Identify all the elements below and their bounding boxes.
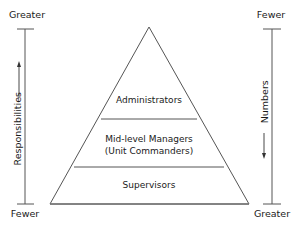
tier-label: Supervisors (123, 179, 176, 191)
left-axis-bottom-label: Fewer (11, 209, 39, 219)
right-axis-bottom-label: Greater (254, 209, 290, 219)
pyramid-outline (50, 27, 249, 204)
diagram-canvas (0, 0, 299, 228)
left-axis-top-label: Greater (9, 10, 45, 20)
right-axis-top-label: Fewer (257, 10, 285, 20)
tier-supervisors: Supervisors (123, 179, 176, 191)
tier-label: Mid-level Managers (105, 133, 193, 145)
tier-sublabel: (Unit Commanders) (105, 145, 193, 157)
right-axis-title: Numbers (260, 77, 270, 127)
right-arrow-down-icon (262, 133, 266, 159)
left-axis-title: Responsibilities (13, 89, 23, 169)
tier-administrators: Administrators (116, 94, 182, 106)
tier-mid-level-managers: Mid-level Managers (Unit Commanders) (105, 133, 193, 157)
tier-label: Administrators (116, 94, 182, 106)
